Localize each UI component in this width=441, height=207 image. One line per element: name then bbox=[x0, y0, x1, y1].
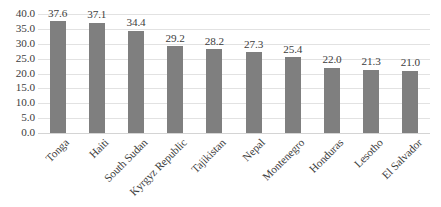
bar bbox=[50, 21, 66, 133]
bar bbox=[246, 52, 262, 133]
plot-area: 37.637.134.429.228.227.325.422.021.321.0 bbox=[38, 14, 430, 133]
y-axis-tick-label: 15.0 bbox=[0, 83, 35, 94]
bar-slot: 27.3 bbox=[234, 14, 273, 133]
x-axis: TongaHaitiSouth SudanKyrgyz RepublicTaji… bbox=[38, 133, 430, 207]
bar-value-label: 21.0 bbox=[401, 57, 420, 68]
x-axis-tick-label: Haiti bbox=[87, 137, 110, 160]
bar bbox=[324, 68, 340, 133]
bar-value-label: 22.0 bbox=[322, 54, 341, 65]
bar-value-label: 27.3 bbox=[244, 39, 263, 50]
y-axis: 40.035.030.025.020.015.010.05.00.0 bbox=[0, 0, 35, 207]
bar-slot: 21.3 bbox=[352, 14, 391, 133]
bar-slot: 37.1 bbox=[77, 14, 116, 133]
y-axis-tick-label: 10.0 bbox=[0, 98, 35, 109]
bar-slot: 28.2 bbox=[195, 14, 234, 133]
bar-slot: 21.0 bbox=[391, 14, 430, 133]
y-axis-tick-label: 5.0 bbox=[0, 113, 35, 124]
bar bbox=[128, 31, 144, 133]
bar bbox=[206, 49, 222, 133]
x-axis-tick-label: Tonga bbox=[44, 137, 71, 164]
bar bbox=[167, 46, 183, 133]
bar-slot: 37.6 bbox=[38, 14, 77, 133]
y-axis-tick-label: 30.0 bbox=[0, 38, 35, 49]
bar bbox=[402, 71, 418, 133]
bar-value-label: 34.4 bbox=[126, 17, 145, 28]
x-axis-tick-label: Montenegro bbox=[261, 137, 307, 183]
bar-slot: 29.2 bbox=[156, 14, 195, 133]
bar-value-label: 29.2 bbox=[166, 33, 185, 44]
y-axis-tick-label: 20.0 bbox=[0, 68, 35, 79]
bar-chart: 40.035.030.025.020.015.010.05.00.0 37.63… bbox=[0, 0, 441, 207]
y-axis-tick-label: 0.0 bbox=[0, 127, 35, 138]
bar bbox=[89, 23, 105, 133]
x-axis-tick-label: Honduras bbox=[308, 137, 346, 175]
x-axis-tick-label: Lesotho bbox=[352, 137, 385, 170]
bar-value-label: 28.2 bbox=[205, 36, 224, 47]
bar-slot: 25.4 bbox=[273, 14, 312, 133]
bar-slot: 22.0 bbox=[312, 14, 351, 133]
y-axis-tick-label: 25.0 bbox=[0, 53, 35, 64]
bar-slot: 34.4 bbox=[116, 14, 155, 133]
bar bbox=[285, 57, 301, 133]
x-axis-tick-label: Tajikistan bbox=[190, 137, 228, 175]
x-axis-tick-label: Nepal bbox=[241, 137, 267, 163]
bar-value-label: 37.1 bbox=[87, 9, 106, 20]
bar-value-label: 37.6 bbox=[48, 8, 67, 19]
x-axis-tick-label: El Salvador bbox=[380, 137, 424, 181]
bar-value-label: 21.3 bbox=[362, 56, 381, 67]
y-axis-tick-label: 35.0 bbox=[0, 23, 35, 34]
bar bbox=[363, 70, 379, 133]
y-axis-tick-label: 40.0 bbox=[0, 8, 35, 19]
bar-value-label: 25.4 bbox=[283, 44, 302, 55]
